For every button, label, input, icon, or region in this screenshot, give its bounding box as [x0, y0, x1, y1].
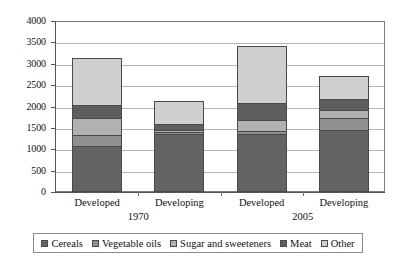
stacked-bar-chart: 40003500300025002000150010005000 Develop…	[0, 0, 398, 265]
bar-segment-sugar-and-sweeteners	[320, 111, 368, 119]
legend-label: Vegetable oils	[102, 238, 161, 249]
y-axis-tick-label: 500	[0, 166, 46, 176]
bar-segment-meat	[320, 100, 368, 111]
bar-segment-other	[155, 102, 203, 125]
y-axis-tick-label: 1000	[0, 144, 46, 154]
x-axis-category-label: Developing	[299, 196, 389, 209]
bars-layer	[56, 21, 385, 192]
x-axis-category-label: Developing	[134, 196, 224, 209]
y-axis-tick-label: 2500	[0, 80, 46, 90]
x-axis-group-label-1970: 1970	[93, 210, 183, 223]
legend-swatch-icon	[92, 240, 99, 247]
legend-label: Cereals	[51, 238, 83, 249]
bar-segment-other	[238, 47, 286, 104]
bar-developed-2005	[237, 46, 287, 192]
legend-label: Other	[331, 238, 355, 249]
bar-developed-1970	[72, 58, 122, 192]
y-axis-tick-label: 2000	[0, 102, 46, 112]
x-axis-category-label: Developed	[217, 196, 307, 209]
legend-item-vegetable-oils: Vegetable oils	[92, 238, 161, 249]
bar-segment-meat	[238, 104, 286, 121]
legend-swatch-icon	[170, 240, 177, 247]
legend-swatch-icon	[280, 240, 287, 247]
legend-label: Meat	[290, 238, 312, 249]
bar-segment-meat	[73, 106, 121, 119]
legend-swatch-icon	[321, 240, 328, 247]
bar-segment-vegetable-oils	[73, 136, 121, 147]
bar-segment-sugar-and-sweeteners	[73, 119, 121, 136]
legend-item-sugar-and-sweeteners: Sugar and sweeteners	[170, 238, 271, 249]
bar-segment-cereals	[320, 131, 368, 191]
chart-legend: CerealsVegetable oilsSugar and sweetener…	[33, 233, 363, 253]
y-axis-tick-label: 4000	[0, 16, 46, 26]
legend-swatch-icon	[41, 240, 48, 247]
bar-segment-other	[320, 77, 368, 101]
y-axis-tick-label: 1500	[0, 123, 46, 133]
x-axis-group-label-2005: 2005	[258, 210, 348, 223]
bar-segment-other	[73, 59, 121, 107]
y-axis-tick-label: 0	[0, 187, 46, 197]
bar-developing-1970	[154, 101, 204, 192]
bar-developing-2005	[319, 76, 369, 192]
x-axis-category-label: Developed	[52, 196, 142, 209]
legend-item-meat: Meat	[280, 238, 312, 249]
y-axis-tick-label: 3000	[0, 59, 46, 69]
bar-segment-cereals	[238, 135, 286, 192]
bar-segment-cereals	[73, 147, 121, 191]
bar-segment-vegetable-oils	[320, 119, 368, 132]
legend-label: Sugar and sweeteners	[180, 238, 271, 249]
bar-segment-sugar-and-sweeteners	[238, 121, 286, 132]
legend-item-cereals: Cereals	[41, 238, 83, 249]
bar-segment-cereals	[155, 135, 203, 191]
legend-item-other: Other	[321, 238, 355, 249]
y-axis-tick-label: 3500	[0, 37, 46, 47]
